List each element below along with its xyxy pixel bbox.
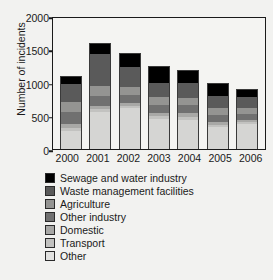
x-tick-label: 2001 (83, 152, 113, 164)
bar-segment (208, 84, 228, 95)
bar-segment (178, 71, 198, 83)
legend-swatch-icon (45, 199, 55, 209)
x-axis-ticks: 2000200120022003200420052006 (52, 152, 266, 164)
legend-item[interactable]: Other industry (45, 211, 194, 223)
legend-item[interactable]: Sewage and water industry (45, 172, 194, 184)
legend-label: Transport (60, 237, 105, 249)
bar-segment (178, 105, 198, 113)
chart-root: Number of incidents 0500100015002000 200… (0, 0, 273, 280)
legend-swatch-icon (45, 186, 55, 196)
legend-label: Domestic (60, 224, 104, 236)
bar-2004[interactable] (177, 70, 199, 149)
bar-group (53, 18, 265, 149)
bar-2006[interactable] (236, 89, 258, 149)
bar-segment (149, 67, 169, 83)
legend-swatch-icon (45, 225, 55, 235)
bar-segment (120, 95, 140, 103)
bar-segment (61, 77, 81, 85)
bar-2005[interactable] (207, 83, 229, 149)
bar-segment (61, 131, 81, 149)
bar-segment (120, 67, 140, 86)
bar-segment (237, 90, 257, 97)
bar-segment (149, 105, 169, 113)
x-tick-label: 2005 (205, 152, 235, 164)
legend-swatch-icon (45, 251, 55, 261)
bar-2003[interactable] (148, 66, 170, 149)
legend-item[interactable]: Domestic (45, 224, 194, 236)
x-tick-label: 2004 (175, 152, 205, 164)
legend-swatch-icon (45, 173, 55, 183)
legend-label: Other industry (60, 211, 126, 223)
x-tick-label: 2000 (52, 152, 82, 164)
legend-item[interactable]: Agriculture (45, 198, 194, 210)
legend-label: Agriculture (60, 198, 110, 210)
legend-swatch-icon (45, 212, 55, 222)
plot-area: 0500100015002000 (52, 17, 266, 150)
x-tick-label: 2006 (236, 152, 266, 164)
legend-item[interactable]: Other (45, 250, 194, 262)
bar-segment (120, 87, 140, 96)
bar-segment (149, 83, 169, 98)
bar-segment (90, 44, 110, 54)
bar-segment (61, 84, 81, 102)
bar-segment (90, 96, 110, 107)
legend-swatch-icon (45, 238, 55, 248)
legend-label: Other (60, 250, 86, 262)
chart-legend: Sewage and water industryWaste managemen… (45, 172, 194, 262)
bar-2001[interactable] (89, 43, 111, 149)
bar-segment (208, 96, 228, 109)
bar-segment (178, 98, 198, 105)
x-tick-label: 2003 (144, 152, 174, 164)
bar-segment (237, 124, 257, 149)
bar-2000[interactable] (60, 76, 82, 149)
bar-segment (149, 97, 169, 104)
bar-segment (120, 108, 140, 149)
bar-segment (120, 54, 140, 67)
bar-segment (208, 127, 228, 149)
bar-segment (178, 83, 198, 98)
bar-segment (90, 54, 110, 86)
legend-item[interactable]: Waste management facilities (45, 185, 194, 197)
bar-segment (61, 102, 81, 111)
bar-segment (90, 86, 110, 96)
bar-segment (90, 112, 110, 149)
bar-segment (149, 119, 169, 149)
legend-item[interactable]: Transport (45, 237, 194, 249)
bar-segment (178, 120, 198, 149)
bar-2002[interactable] (119, 53, 141, 149)
x-tick-label: 2002 (113, 152, 143, 164)
bar-segment (208, 115, 228, 123)
legend-label: Sewage and water industry (60, 172, 187, 184)
bar-segment (237, 97, 257, 108)
legend-label: Waste management facilities (60, 185, 194, 197)
bar-segment (61, 112, 81, 124)
